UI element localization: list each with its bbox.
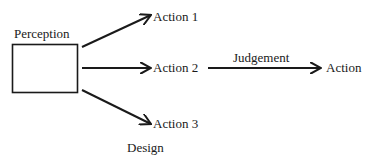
action-2-label: Action 2 <box>153 61 198 75</box>
arrow-to-action-1 <box>82 15 151 47</box>
action-1-label: Action 1 <box>153 10 198 24</box>
perception-label: Perception <box>14 27 70 41</box>
final-action-label: Action <box>326 61 361 75</box>
diagram-canvas: Perception Action 1 Action 2 Action 3 Ju… <box>0 0 366 163</box>
action-3-label: Action 3 <box>153 117 198 131</box>
perception-box <box>13 45 78 93</box>
arrow-to-action-3 <box>82 90 151 124</box>
diagram-lines <box>0 0 366 163</box>
design-label: Design <box>127 141 164 155</box>
judgement-label: Judgement <box>233 51 289 65</box>
